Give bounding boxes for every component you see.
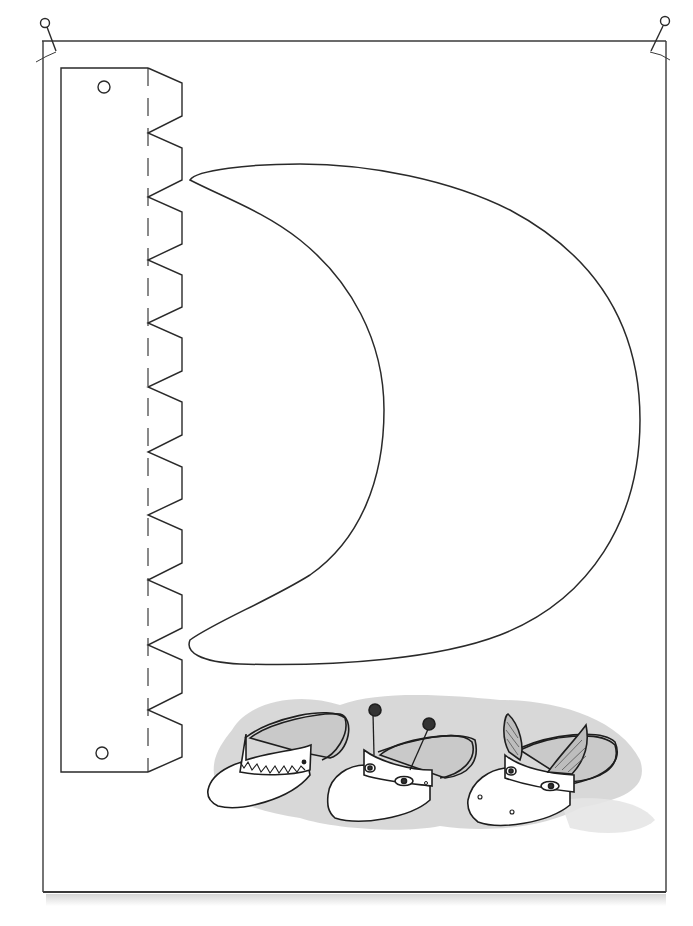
strip-hole-top xyxy=(98,81,110,93)
strip-hole-bottom xyxy=(96,747,108,759)
headband-strip xyxy=(61,68,182,772)
pin-icon xyxy=(651,17,670,52)
visor-brim-outline xyxy=(189,164,640,665)
craft-template-artwork xyxy=(0,0,693,926)
